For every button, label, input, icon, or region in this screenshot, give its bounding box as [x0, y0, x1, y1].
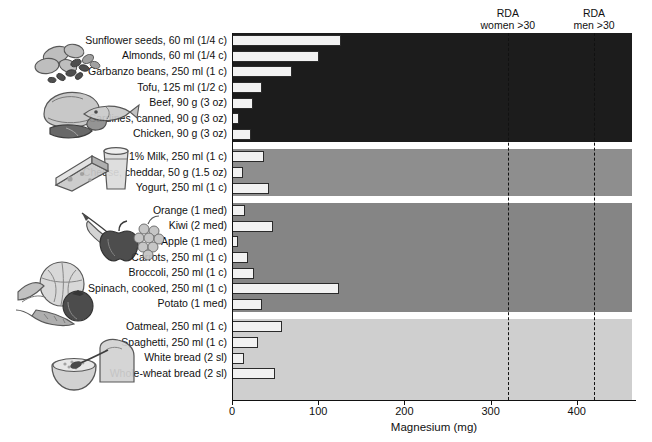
bar — [232, 283, 339, 294]
bar — [232, 205, 245, 216]
bar — [232, 35, 341, 46]
x-axis-title: Magnesium (mg) — [232, 421, 636, 433]
bar — [232, 129, 251, 140]
fruit-illustration — [78, 207, 164, 265]
x-tick-label: 200 — [395, 405, 413, 417]
rda-women-label-line2: women >30 — [481, 19, 536, 31]
bar — [232, 98, 253, 109]
bar — [232, 82, 262, 93]
grains-bread-and-cereal-illustration — [48, 338, 140, 396]
rda-women-label: RDAwomen >30 — [481, 7, 536, 31]
bar — [232, 368, 275, 379]
bar — [232, 66, 292, 77]
cheese-and-milk-illustration — [52, 145, 136, 195]
band-fruits-and-vegetables — [232, 203, 632, 312]
plot-area — [232, 33, 632, 400]
rda-women-label-line1: RDA — [481, 7, 536, 19]
x-tick-label: 0 — [229, 405, 235, 417]
bar — [232, 252, 248, 263]
bar — [232, 268, 254, 279]
bar — [232, 353, 244, 364]
bar — [232, 299, 262, 310]
bar — [232, 221, 273, 232]
bar — [232, 51, 319, 62]
x-tick-label: 300 — [481, 405, 499, 417]
bar — [232, 151, 264, 162]
meat-poultry-fish-illustration — [36, 84, 141, 146]
magnesium-content-chart: 0100200300400 Magnesium (mg) Sunflower s… — [0, 0, 652, 442]
bar — [232, 183, 269, 194]
bar — [232, 337, 258, 348]
rda-women-line — [508, 33, 509, 400]
rda-men-label-line2: men >30 — [573, 19, 614, 31]
bar — [232, 167, 243, 178]
seeds-and-nuts-illustration — [30, 42, 116, 90]
rda-men-line — [594, 33, 595, 400]
band-grains — [232, 319, 632, 400]
bar — [232, 321, 282, 332]
band-protein-foods — [232, 33, 632, 142]
x-axis-line — [232, 400, 636, 401]
x-tick-label: 100 — [309, 405, 327, 417]
x-tick-label: 400 — [568, 405, 586, 417]
vegetables-illustration — [14, 258, 122, 328]
band-dairy — [232, 149, 632, 196]
rda-men-label-line1: RDA — [573, 7, 614, 19]
rda-men-label: RDAmen >30 — [573, 7, 614, 31]
bar — [232, 113, 239, 124]
y-axis-line — [232, 33, 233, 401]
